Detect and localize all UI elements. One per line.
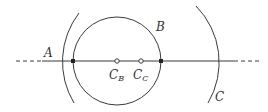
label-a: A — [43, 46, 53, 60]
circles-diagram: A B C CB CC — [0, 0, 268, 112]
circle-c-right-arc — [196, 6, 219, 103]
intersection-marker-left — [71, 59, 75, 63]
label-b: B — [155, 20, 165, 34]
label-c: C — [215, 90, 224, 104]
label-cb: CB — [109, 68, 124, 83]
center-cc-point — [139, 59, 143, 63]
label-cc: CC — [133, 68, 148, 83]
center-cb-point — [115, 59, 119, 63]
intersection-marker-right — [159, 59, 163, 63]
circle-c-left-arc — [62, 13, 79, 103]
